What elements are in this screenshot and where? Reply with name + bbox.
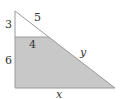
label-bottom-edge: x — [56, 88, 63, 99]
label-lower-left-side: 6 — [5, 54, 12, 67]
label-upper-left-side: 3 — [5, 18, 12, 31]
label-inner-top-edge: 4 — [29, 38, 36, 51]
similar-triangles-diagram: 3 5 4 6 y x — [0, 0, 122, 99]
label-lower-hypotenuse: y — [79, 46, 87, 59]
label-upper-hypotenuse: 5 — [34, 11, 41, 24]
